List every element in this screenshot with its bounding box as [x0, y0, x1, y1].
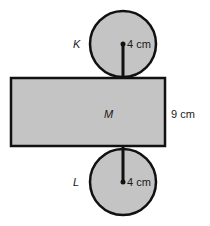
- circle-l-label: L: [73, 176, 79, 188]
- circle-k-label: K: [73, 38, 81, 50]
- rectangle-m: M 9 cm: [11, 78, 195, 146]
- circle-k-radius-label: 4 cm: [127, 38, 151, 50]
- rectangle-m-label: M: [104, 108, 114, 120]
- circle-k-center-dot: [121, 42, 126, 47]
- rectangle-m-shape: [11, 78, 165, 146]
- rectangle-height-label: 9 cm: [171, 108, 195, 120]
- circle-l-center-dot: [121, 180, 126, 185]
- top-circle-k: 4 cm K: [73, 11, 156, 77]
- cylinder-net-diagram: 4 cm K M 9 cm 4 cm L: [0, 0, 210, 226]
- circle-l-radius-label: 4 cm: [127, 176, 151, 188]
- bottom-circle-l: 4 cm L: [73, 147, 156, 215]
